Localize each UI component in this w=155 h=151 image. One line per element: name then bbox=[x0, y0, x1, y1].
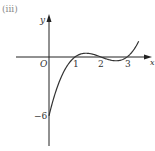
x-tick-3: 3 bbox=[125, 60, 131, 69]
y-axis-label: y bbox=[40, 16, 45, 25]
cubic-graph bbox=[0, 0, 155, 151]
x-axis-label: x bbox=[150, 59, 155, 67]
x-tick-2: 2 bbox=[98, 60, 104, 69]
y-intercept-label: −6 bbox=[34, 112, 47, 121]
x-tick-1: 1 bbox=[73, 60, 79, 69]
cubic-curve bbox=[49, 41, 139, 115]
y-axis-arrow-icon bbox=[47, 14, 52, 22]
origin-label: O bbox=[40, 60, 47, 69]
